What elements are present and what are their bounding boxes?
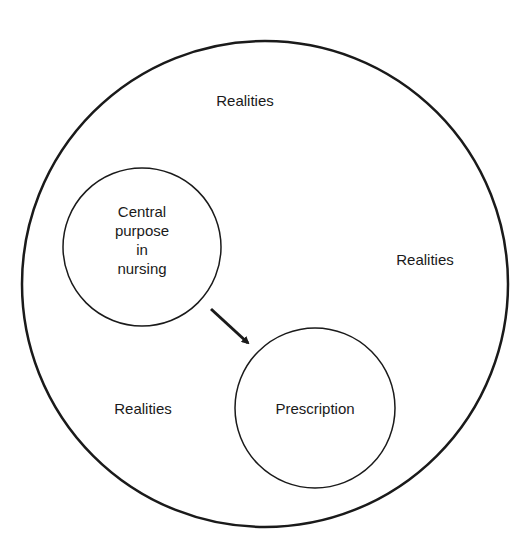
realities-label-left: Realities: [93, 399, 193, 418]
central-purpose-line-1: Central: [92, 202, 192, 221]
central-purpose-line-4: nursing: [92, 259, 192, 278]
realities-label-top: Realities: [195, 91, 295, 110]
arrow-icon: [211, 309, 248, 343]
central-purpose-label: Central purpose in nursing: [92, 202, 192, 278]
outer-realities-circle: [22, 41, 508, 527]
central-purpose-line-3: in: [92, 240, 192, 259]
prescription-label: Prescription: [255, 399, 375, 418]
central-purpose-line-2: purpose: [92, 221, 192, 240]
realities-label-right: Realities: [375, 250, 475, 269]
diagram-canvas: [0, 0, 528, 558]
